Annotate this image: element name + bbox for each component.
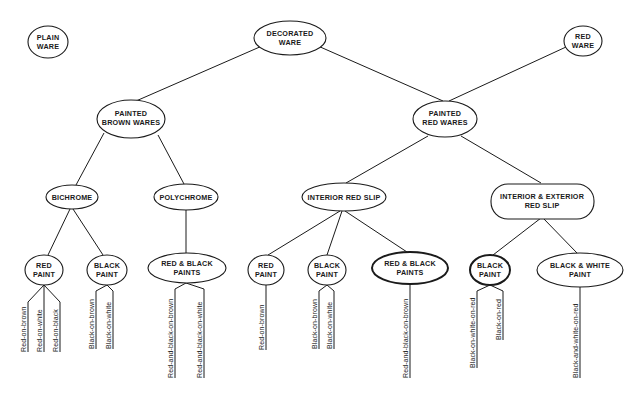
edge-bichrome-to-red-paint <box>48 209 70 255</box>
node-iers-black-white-paint: BLACK & WHITE PAINT <box>537 253 623 287</box>
edge-painted-red-to-irs <box>346 136 428 183</box>
leaf-label: Black-on-brown <box>88 299 95 349</box>
edge-iers-to-black-white <box>543 218 577 253</box>
node-label: RED SLIP <box>525 201 560 210</box>
leaf-labels: Red-on-brown Red-on-white Red-on-black B… <box>20 297 579 378</box>
leaf-label: Red-and-black-on-brown <box>402 299 409 378</box>
node-label: RED & BLACK <box>384 259 436 268</box>
node-label: WARE <box>572 41 594 50</box>
leaf-label: Black-and-white-on-red <box>572 303 579 378</box>
ware-classification-diagram: PLAIN WARE DECORATED WARE RED WARE PAINT… <box>0 0 640 405</box>
leaf-connector <box>175 283 186 378</box>
node-red-ware: RED WARE <box>564 26 602 56</box>
node-label: RED <box>258 261 274 270</box>
node-label: PAINT <box>255 270 277 279</box>
node-label: RED <box>36 261 52 270</box>
node-label: RED WARES <box>422 118 467 127</box>
node-plain-ware: PLAIN WARE <box>28 26 68 58</box>
leaf-label: Black-on-white <box>105 302 112 349</box>
node-label: DECORATED <box>267 29 314 38</box>
node-label: PAINT <box>316 270 338 279</box>
node-label: POLYCHROME <box>160 193 213 202</box>
node-polychrome-red-black-paints: RED & BLACK PAINTS <box>148 253 226 283</box>
edge-red-ware-to-painted-red <box>449 47 566 101</box>
edge-iers-to-black-paint <box>493 218 541 255</box>
node-label: INTERIOR & EXTERIOR <box>500 192 585 201</box>
node-painted-red-wares: PAINTED RED WARES <box>413 101 477 137</box>
node-polychrome: POLYCHROME <box>154 184 218 210</box>
node-iers-black-paint: BLACK PAINT <box>470 255 510 285</box>
node-interior-red-slip: INTERIOR RED SLIP <box>302 183 386 211</box>
edge-decorated-to-painted-red <box>318 46 443 101</box>
node-label: RED <box>575 32 591 41</box>
node-label: BLACK & WHITE <box>550 261 610 270</box>
edge-painted-brown-to-bichrome <box>76 133 104 185</box>
node-label: PAINT <box>33 270 55 279</box>
edge-bichrome-to-black-paint <box>73 209 103 255</box>
node-label: INTERIOR RED SLIP <box>308 193 381 202</box>
node-irs-red-black-paints: RED & BLACK PAINTS <box>372 252 448 284</box>
node-irs-black-paint: BLACK PAINT <box>308 255 346 285</box>
node-bichrome-black-paint: BLACK PAINT <box>87 255 127 285</box>
node-label: PAINT <box>96 270 118 279</box>
node-label: PAINTS <box>173 268 200 277</box>
node-bichrome-red-paint: RED PAINT <box>25 255 63 285</box>
node-label: BLACK <box>314 261 341 270</box>
node-bichrome: BICHROME <box>46 185 98 209</box>
leaf-label: Red-on-white <box>36 309 43 352</box>
leaf-label: Red-on-brown <box>258 304 265 350</box>
node-label: PLAIN <box>37 33 60 42</box>
leaf-label: Black-on-red <box>495 299 502 340</box>
node-label: PAINT <box>569 270 591 279</box>
node-label: PAINTED <box>429 109 461 118</box>
node-painted-brown-wares: PAINTED BROWN WARES <box>97 100 165 138</box>
node-label: PAINT <box>479 270 501 279</box>
leaf-label: Red-on-brown <box>20 306 27 352</box>
edge-painted-red-to-iers <box>461 136 541 183</box>
node-label: WARE <box>279 38 301 47</box>
leaf-label: Red-and-black-on-white <box>196 301 203 378</box>
leaf-connector <box>477 285 490 368</box>
leaf-label: Red-and-black-on-brown <box>167 299 174 378</box>
leaf-label: Black-on-white-on-red <box>469 297 476 368</box>
node-irs-red-paint: RED PAINT <box>248 255 284 285</box>
leaf-label: Black-on-brown <box>311 299 318 349</box>
node-label: PAINTED <box>115 109 147 118</box>
edge-painted-brown-to-polychrome <box>158 135 184 184</box>
edge-irs-to-red-black <box>345 211 407 252</box>
leaf-label: Black-on-white <box>326 302 333 349</box>
leaf-label: Red-on-black <box>52 309 59 352</box>
node-label: BLACK <box>94 261 121 270</box>
node-interior-exterior-red-slip: INTERIOR & EXTERIOR RED SLIP <box>491 184 594 219</box>
node-label: BICHROME <box>52 193 93 202</box>
node-label: RED & BLACK <box>161 259 213 268</box>
node-label: WARE <box>37 42 59 51</box>
node-label: BLACK <box>477 261 504 270</box>
node-decorated-ware: DECORATED WARE <box>254 21 326 55</box>
node-label: PAINTS <box>396 268 423 277</box>
node-label: BROWN WARES <box>102 118 161 127</box>
edge-decorated-to-painted-brown <box>136 46 262 101</box>
